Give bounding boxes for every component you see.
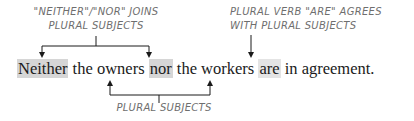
arrow-verb [248,35,254,58]
bracket-conjunction [39,36,152,58]
word-neither: Neither [17,59,68,78]
arrow-down-icon [248,52,254,58]
annotation-subjects: PLURAL SUBJECTS [108,101,220,115]
arrow-down-icon [146,52,152,58]
example-sentence: Neither the owners nor the workers are i… [17,59,374,79]
word-nor: nor [149,59,173,78]
text-segment: in agreement. [281,59,375,78]
bracket-subjects [107,80,213,103]
annotation-subjects-line1: PLURAL SUBJECTS [108,101,220,115]
word-owners: owners [97,59,145,78]
arrow-down-icon [39,52,45,58]
word-are: are [258,59,280,78]
text-segment: the [173,59,201,78]
text-segment: the [68,59,96,78]
word-workers: workers [201,59,254,78]
